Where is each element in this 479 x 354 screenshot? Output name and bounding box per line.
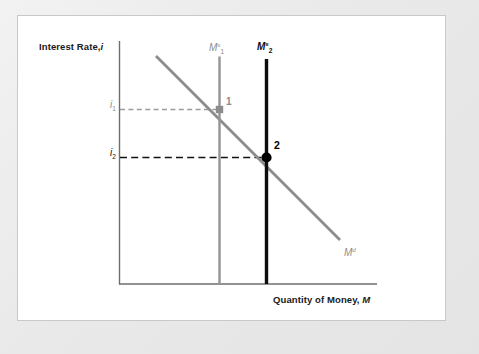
y-axis-title: Interest Rate,i <box>39 42 103 52</box>
equilibrium-point-2 <box>261 152 271 162</box>
figure-panel: Interest Rate,i Quantity of Money, M Ms1… <box>17 15 446 321</box>
y-tick-label-i2: i2 <box>94 148 116 158</box>
i2-subscript: 2 <box>112 153 116 160</box>
md-superscript: d <box>352 246 355 253</box>
ms1-subscript: 1 <box>220 48 224 55</box>
y-axis-title-variable: i <box>101 41 104 52</box>
ms1-superscript: s <box>217 41 220 48</box>
x-axis-title-text: Quantity of Money, <box>273 294 360 305</box>
y-axis-title-text: Interest Rate, <box>39 41 101 52</box>
equilibrium-point-2-label: 2 <box>274 140 280 151</box>
page-background: Interest Rate,i Quantity of Money, M Ms1… <box>0 0 479 354</box>
i1-subscript: 1 <box>112 105 116 112</box>
money-demand-curve <box>156 56 340 240</box>
x-axis-title: Quantity of Money, M <box>273 295 370 305</box>
money-market-chart <box>18 16 447 322</box>
money-supply-1-label: Ms1 <box>209 42 224 53</box>
equilibrium-point-1 <box>216 106 223 113</box>
x-axis-title-variable: M <box>362 294 370 305</box>
money-demand-label: Md <box>344 247 356 258</box>
ms2-subscript: 2 <box>269 47 273 54</box>
ms2-superscript: s <box>265 40 268 47</box>
money-supply-2-label: Ms2 <box>257 41 272 52</box>
y-tick-label-i1: i1 <box>94 100 116 110</box>
equilibrium-point-1-label: 1 <box>226 97 232 107</box>
